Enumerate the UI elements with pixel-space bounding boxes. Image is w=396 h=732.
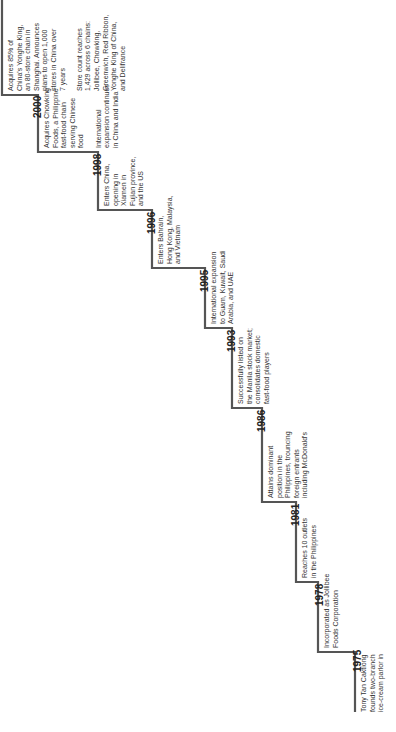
milestone-desc-2000: Acquires Chowking Foods, a Philippine fa…	[43, 84, 120, 148]
milestone-desc-latest: Acquires 85% of China's Yonghe King, an …	[7, 15, 127, 91]
milestone-desc-1995: International expansion to Guam, Kuwait,…	[210, 250, 236, 324]
milestone-desc-1993: Successfully listed on the Manila stock …	[237, 328, 271, 404]
milestone-desc-1975: Tony Tan Caktiong founds two-branch ice-…	[360, 654, 386, 712]
milestone-year-1996: 1996	[146, 212, 157, 234]
milestone-year-1986: 1986	[256, 410, 267, 432]
milestone-desc-1978: Incorporated as Jollibee Foods Corporati…	[323, 574, 340, 648]
milestone-desc-1981: Reaches 10 outlets in the Philippines	[301, 518, 318, 578]
milestone-year-1981: 1981	[290, 504, 301, 526]
milestone-desc-1996: Enters Bahrain, Hong Kong, Malaysia, and…	[157, 196, 183, 264]
milestone-year-1998: 1998	[92, 154, 103, 176]
milestone-year-1993: 1993	[226, 330, 237, 352]
milestone-year-2000: 2000	[32, 96, 43, 118]
milestone-year-1995: 1995	[199, 270, 210, 292]
milestone-desc-1998: Enters China, opening in Xiamen in Fujia…	[103, 157, 146, 206]
milestone-desc-1986: Attains dominant position in the Philipp…	[267, 431, 310, 498]
